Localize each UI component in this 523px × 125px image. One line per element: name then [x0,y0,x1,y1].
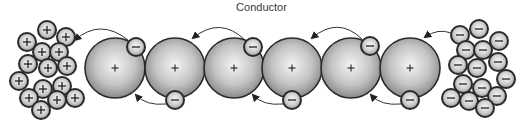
negative-charge [476,99,494,117]
atom-4 [262,38,322,98]
flow-arrow-bottom [253,95,283,104]
negative-charge [490,32,508,50]
positive-charge [38,21,56,39]
positive-charge [66,89,84,107]
flow-arrow-top [425,31,451,37]
positive-charge [32,101,50,119]
positive-charge-cluster [10,21,84,119]
positive-charge [10,72,28,90]
conductor-electron-2 [166,91,184,109]
negative-charge [497,70,515,88]
atom-6 [380,38,440,98]
negative-charge [442,89,460,107]
negative-charge [468,59,486,77]
flow-arrow-top [312,27,362,39]
positive-charge [58,57,76,75]
conductor-diagram [0,0,523,125]
flow-arrow-bottom [136,95,166,104]
positive-charge [19,55,37,73]
conductor-electron-1 [127,38,145,56]
conductor-electron-4 [283,91,301,109]
flow-arrow-bottom [371,95,401,104]
negative-charge [489,53,507,71]
negative-charge [474,41,492,59]
conductor-electron-3 [244,38,262,56]
negative-charge [449,56,467,74]
positive-charge [39,59,57,77]
negative-charge-cluster [442,20,515,117]
positive-charge [48,91,66,109]
negative-charge [470,20,488,38]
conductor-electron-6 [401,91,419,109]
atom-2 [145,38,205,98]
conductor-electron-5 [361,37,379,55]
